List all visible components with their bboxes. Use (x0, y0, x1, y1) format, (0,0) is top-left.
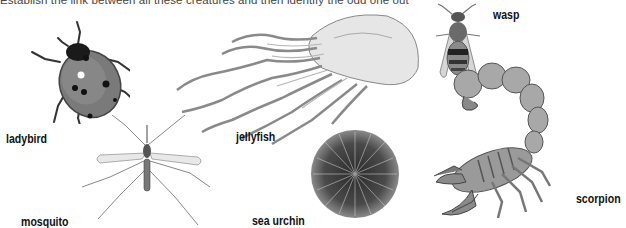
label-wasp: wasp (493, 8, 519, 22)
label-ladybird: ladybird (6, 132, 47, 146)
jellyfish-illustration (172, 8, 422, 148)
sea-urchin-illustration (305, 128, 405, 220)
instruction-text: Establish the link between all these cre… (0, 0, 409, 6)
label-scorpion: scorpion (576, 192, 621, 206)
label-jellyfish: jellyfish (236, 130, 275, 144)
scorpion-illustration (432, 62, 582, 224)
label-mosquito: mosquito (21, 215, 69, 228)
ladybird-illustration (20, 14, 130, 124)
label-sea-urchin: sea urchin (252, 214, 305, 228)
